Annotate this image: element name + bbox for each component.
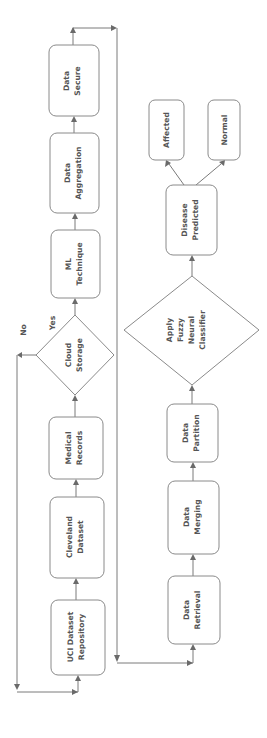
node-label-line: Apply (165, 318, 174, 342)
node-label-line: Neural (187, 316, 196, 344)
node-affected: Affected (149, 100, 184, 160)
arrowhead-icon (190, 644, 196, 650)
node-label-line: Cloud (64, 343, 73, 367)
arrowhead-icon (75, 675, 81, 681)
node-label-line: ML (64, 258, 73, 271)
node-label-line: Data (62, 71, 71, 91)
node-label-line: Technique (75, 242, 84, 285)
node-label-line: Disease (180, 203, 189, 236)
arrowhead-icon (111, 25, 117, 31)
node-normal: Normal (208, 100, 240, 160)
node-data-retrieval: Data Retrieval (168, 576, 220, 644)
edge-predicted-normal (196, 164, 221, 185)
arrowhead-icon (71, 116, 77, 122)
arrowhead-icon (72, 395, 78, 401)
node-label-line: Medical (64, 432, 73, 465)
arrowhead-icon (190, 462, 196, 468)
node-label-line: Records (75, 430, 84, 465)
node-data-secure: Data Secure (49, 45, 99, 116)
edge-to-retrieval (117, 648, 193, 663)
arrowhead-icon (73, 578, 79, 584)
arrowhead-icon (72, 213, 78, 219)
node-label-line: Data (182, 600, 191, 620)
node-label-line: Secure (73, 66, 82, 95)
node-label-line: Retrieval (193, 591, 202, 630)
arrowhead-icon (189, 385, 195, 391)
node-label-line: Dataset (76, 520, 85, 554)
node-label-line: Data (63, 163, 72, 183)
node-data-merging: Data Merging (168, 481, 219, 554)
arrowhead-icon (72, 689, 78, 695)
node-label-line: Data (181, 423, 190, 443)
node-data-partition: Data Partition (167, 404, 218, 462)
arrowhead-icon (114, 655, 120, 662)
node-label-line: Fuzzy (176, 318, 185, 342)
node-label-line: Affected (162, 112, 171, 148)
arrowhead-icon (190, 554, 196, 560)
decision-apply-fuzzy-neural-classifier: Apply Fuzzy Neural Classifier (124, 276, 259, 385)
node-data-aggregation: Data Aggregation (50, 133, 99, 213)
node-label-line: Normal (220, 115, 229, 146)
node-label-line: Storage (75, 338, 84, 372)
node-label-line: Aggregation (74, 146, 83, 199)
arrowhead-icon (17, 352, 22, 358)
arrowhead-icon (73, 479, 79, 485)
arrowhead-icon (187, 660, 193, 666)
arrowhead-icon (72, 298, 78, 304)
node-cleveland-dataset: Cleveland Dataset (50, 497, 104, 578)
node-ml-technique: ML Technique (51, 230, 100, 298)
node-disease-predicted: Disease Predicted (166, 185, 217, 255)
node-label-line: Repository (77, 614, 86, 660)
arrowhead-icon (189, 255, 195, 261)
edge-predicted-affected (169, 164, 184, 185)
edge-label-no: No (19, 324, 28, 336)
node-medical-records: Medical Records (49, 417, 103, 479)
node-label-line: Data (182, 507, 191, 527)
node-label-line: Partition (192, 414, 201, 451)
edge-secure-top (73, 28, 113, 45)
arrowhead-icon (14, 684, 20, 690)
node-label-line: Classifier (198, 310, 207, 350)
node-label-line: Merging (193, 499, 202, 534)
node-label-line: Cleveland (65, 516, 74, 558)
edge-to-uci (17, 679, 78, 692)
node-label-line: UCI Dataset (66, 611, 75, 662)
flowchart-diagram: Yes No UCI Dataset Repository Cleveland … (0, 0, 267, 738)
node-label-line: Predicted (191, 199, 200, 240)
edge-label-yes: Yes (48, 315, 57, 331)
node-uci-dataset-repository: UCI Dataset Repository (51, 600, 105, 675)
